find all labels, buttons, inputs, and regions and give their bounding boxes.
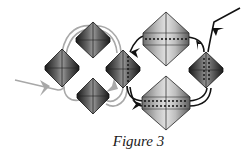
- small-diamond-left: [45, 49, 79, 87]
- figure-caption: Figure 3: [0, 133, 247, 150]
- small-diamond-right: [189, 52, 223, 88]
- small-diamond-bottom-left: [77, 78, 109, 114]
- small-diamond-middle: [106, 50, 140, 88]
- large-diamond-bottom: [142, 76, 190, 130]
- large-diamond-top: [143, 12, 189, 66]
